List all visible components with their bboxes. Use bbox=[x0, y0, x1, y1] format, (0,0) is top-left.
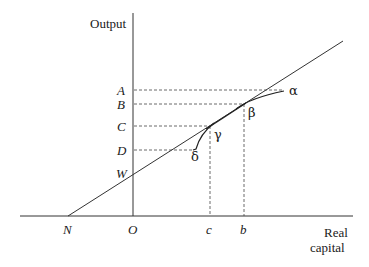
label-N: N bbox=[62, 222, 73, 237]
label-C: C bbox=[117, 119, 126, 134]
curve-gamma-beta-overlap bbox=[206, 103, 246, 129]
label-A: A bbox=[116, 83, 125, 98]
x-axis-label-line2: capital bbox=[310, 240, 345, 255]
label-c: c bbox=[206, 222, 212, 237]
label-W: W bbox=[116, 166, 128, 181]
label-O: O bbox=[128, 222, 138, 237]
diagram-canvas: Output Real capital A B C D W N O c b α … bbox=[0, 0, 369, 267]
label-gamma: γ bbox=[214, 127, 222, 142]
tangent-line bbox=[68, 41, 343, 216]
y-axis-label: Output bbox=[90, 16, 127, 31]
label-delta: δ bbox=[191, 149, 199, 164]
label-D: D bbox=[116, 143, 127, 158]
label-alpha: α bbox=[289, 83, 298, 98]
label-beta: β bbox=[248, 105, 256, 120]
label-B: B bbox=[117, 97, 125, 112]
label-b: b bbox=[240, 222, 247, 237]
curve-delta-gamma bbox=[193, 123, 214, 150]
x-axis-label-line1: Real bbox=[324, 225, 348, 240]
